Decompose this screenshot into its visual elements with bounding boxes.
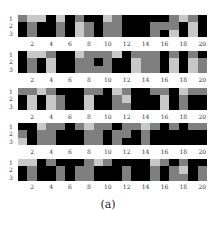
heatmap-cell <box>150 130 159 137</box>
y-tick-label: 2 <box>9 22 13 29</box>
heatmap-cell <box>188 123 197 130</box>
heatmap-cell <box>84 66 93 73</box>
x-tick-label: 12 <box>123 76 131 83</box>
heatmap-cell <box>37 166 46 173</box>
heatmap-cell <box>65 66 74 73</box>
heatmap-cell <box>160 130 169 137</box>
heatmap-cell <box>179 88 188 95</box>
heatmap-cell <box>188 95 197 102</box>
heatmap-cell <box>160 174 169 181</box>
x-tick-label: 4 <box>49 148 53 155</box>
heatmap-cell <box>75 30 84 37</box>
heatmap-cell <box>169 95 178 102</box>
y-tick-label: 3 <box>9 66 13 73</box>
heatmap-cell <box>141 51 150 58</box>
heatmap-cell <box>198 51 207 58</box>
heatmap-cell <box>150 15 159 22</box>
heatmap-cell <box>18 51 27 58</box>
heatmap-cell <box>188 138 197 145</box>
heatmap-cell <box>37 22 46 29</box>
heatmap-cell <box>112 30 121 37</box>
heatmap-cell <box>94 138 103 145</box>
heatmap-cell <box>198 95 207 102</box>
x-tick-label: 2 <box>30 183 34 190</box>
heatmap-cell <box>65 159 74 166</box>
heatmap-cell <box>150 66 159 73</box>
heatmap-cell <box>18 130 27 137</box>
heatmap-cell <box>160 58 169 65</box>
heatmap-cell <box>56 22 65 29</box>
heatmap-cell <box>150 159 159 166</box>
heatmap-cell <box>122 15 131 22</box>
heatmap-cell <box>27 66 36 73</box>
x-tick-label: 10 <box>104 113 112 120</box>
heatmap-cell <box>169 22 178 29</box>
heatmap-cell <box>150 51 159 58</box>
heatmap-cell <box>150 30 159 37</box>
heatmap-cell <box>179 66 188 73</box>
heatmap-cell <box>188 66 197 73</box>
heatmap-cell <box>122 130 131 137</box>
heatmap-cell <box>188 15 197 22</box>
heatmap-cell <box>37 15 46 22</box>
heatmap-cell <box>65 15 74 22</box>
heatmap-cell <box>179 58 188 65</box>
heatmap-cell <box>103 58 112 65</box>
heatmap-cell <box>160 103 169 110</box>
heatmap-cell <box>27 123 36 130</box>
heatmap-cell <box>46 22 55 29</box>
heatmap-cell <box>37 138 46 145</box>
x-tick-label: 12 <box>123 40 131 47</box>
heatmap-cell <box>122 103 131 110</box>
heatmap-cell <box>179 103 188 110</box>
heatmap-cell <box>188 166 197 173</box>
heatmap-cell <box>131 66 140 73</box>
heatmap-cell <box>27 58 36 65</box>
heatmap-cell <box>56 103 65 110</box>
heatmap-cell <box>56 15 65 22</box>
heatmap-cell <box>56 159 65 166</box>
heatmap-cell <box>94 51 103 58</box>
heatmap-cell <box>179 123 188 130</box>
x-tick-label: 10 <box>104 148 112 155</box>
heatmap-cell <box>18 123 27 130</box>
heatmap-cell <box>169 88 178 95</box>
heatmap-cell <box>37 174 46 181</box>
heatmap-cell <box>46 166 55 173</box>
heatmap-cell <box>84 159 93 166</box>
heatmap-cell <box>150 103 159 110</box>
heatmap-cell <box>141 174 150 181</box>
heatmap-cell <box>179 95 188 102</box>
heatmap-panel-2 <box>18 51 207 73</box>
heatmap-cell <box>27 159 36 166</box>
heatmap-cell <box>160 15 169 22</box>
heatmap-cell <box>188 159 197 166</box>
heatmap-cell <box>75 88 84 95</box>
heatmap-cell <box>122 95 131 102</box>
heatmap-cell <box>103 130 112 137</box>
y-tick-label: 1 <box>9 15 13 22</box>
y-tick-label: 1 <box>9 88 13 95</box>
heatmap-cell <box>46 123 55 130</box>
heatmap-cell <box>141 166 150 173</box>
heatmap-cell <box>188 51 197 58</box>
heatmap-cell <box>65 103 74 110</box>
x-tick-label: 6 <box>68 148 72 155</box>
heatmap-cell <box>169 123 178 130</box>
heatmap-cell <box>169 103 178 110</box>
heatmap-cell <box>37 95 46 102</box>
heatmap-cell <box>103 51 112 58</box>
heatmap-cell <box>84 22 93 29</box>
heatmap-cell <box>141 88 150 95</box>
heatmap-cell <box>103 166 112 173</box>
heatmap-cell <box>56 130 65 137</box>
x-axis-ticks: 2468101214161820 <box>18 76 207 84</box>
x-axis-ticks: 2468101214161820 <box>18 148 207 156</box>
heatmap-cell <box>150 58 159 65</box>
x-tick-label: 16 <box>161 76 169 83</box>
heatmap-cell <box>84 15 93 22</box>
heatmap-cell <box>150 174 159 181</box>
heatmap-cell <box>65 174 74 181</box>
heatmap-cell <box>94 88 103 95</box>
heatmap-cell <box>131 58 140 65</box>
